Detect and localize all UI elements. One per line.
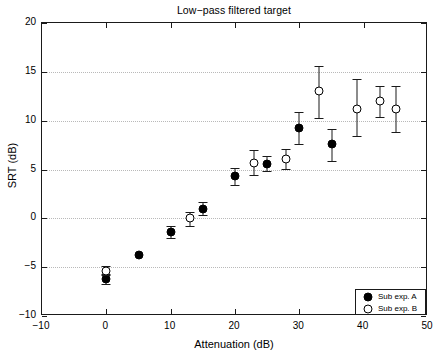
- data-point-a: [134, 251, 143, 260]
- y-axis-title: SRT (dB): [6, 126, 19, 206]
- y-axis-tick: [42, 316, 47, 317]
- y-axis-tick-label: −5: [25, 261, 36, 271]
- gridline-horizontal: [42, 267, 426, 268]
- error-bar-cap: [231, 185, 240, 186]
- x-axis-tick: [106, 23, 107, 28]
- gridline-horizontal: [42, 218, 426, 219]
- y-axis-tick-label: −10: [19, 310, 36, 320]
- chart-figure: Low−pass filtered target −10−505101520 −…: [0, 0, 441, 359]
- data-point-b: [314, 87, 323, 96]
- error-bar-cap: [353, 136, 362, 137]
- x-axis-tick-label: 50: [421, 321, 432, 331]
- error-bar-cap: [375, 86, 384, 87]
- error-bar-cap: [314, 118, 323, 119]
- y-axis-tick-label: 10: [25, 115, 36, 125]
- error-bar-cap: [282, 169, 291, 170]
- y-axis-tick-label: 0: [30, 212, 36, 222]
- error-bar-cap: [250, 175, 259, 176]
- error-bar-cap: [327, 129, 336, 130]
- error-bar-cap: [198, 215, 207, 216]
- plot-area: [41, 22, 427, 315]
- error-bar-cap: [282, 149, 291, 150]
- x-axis-tick: [364, 23, 365, 28]
- error-bar-cap: [185, 226, 194, 227]
- error-bar-cap: [327, 161, 336, 162]
- gridline-horizontal: [42, 72, 426, 73]
- data-point-a: [295, 123, 304, 132]
- x-axis-tick-label: 30: [293, 321, 304, 331]
- x-axis-tick: [171, 309, 172, 314]
- data-point-a: [231, 172, 240, 181]
- chart-legend: Sub exp. A Sub exp. B: [355, 289, 426, 315]
- x-axis-tick: [235, 23, 236, 28]
- x-axis-tick: [106, 309, 107, 314]
- y-axis-tick: [421, 121, 426, 122]
- data-point-b: [185, 214, 194, 223]
- error-bar-cap: [263, 171, 272, 172]
- data-point-a: [166, 228, 175, 237]
- data-point-b: [391, 104, 400, 113]
- x-axis-tick-label: 10: [164, 321, 175, 331]
- x-axis-tick-label: 20: [228, 321, 239, 331]
- error-bar-cap: [391, 86, 400, 87]
- data-point-a: [198, 204, 207, 213]
- legend-label: Sub exp. B: [378, 304, 417, 313]
- y-axis-tick: [42, 121, 47, 122]
- y-axis-tick: [421, 23, 426, 24]
- y-axis-tick: [421, 72, 426, 73]
- y-axis-tick-label: 15: [25, 66, 36, 76]
- error-bar-cap: [231, 168, 240, 169]
- data-point-b: [250, 158, 259, 167]
- gridline-horizontal: [42, 121, 426, 122]
- y-axis-tick: [42, 267, 47, 268]
- data-point-a: [327, 140, 336, 149]
- error-bar-cap: [263, 156, 272, 157]
- x-axis-tick-label: 40: [357, 321, 368, 331]
- data-point-b: [102, 267, 111, 276]
- y-axis-tick: [42, 23, 47, 24]
- error-bar-cap: [375, 117, 384, 118]
- error-bar-cap: [198, 202, 207, 203]
- y-axis-tick: [421, 170, 426, 171]
- error-bar-cap: [295, 144, 304, 145]
- error-bar-cap: [314, 66, 323, 67]
- y-axis-tick-label: 20: [25, 17, 36, 27]
- x-axis-tick: [299, 23, 300, 28]
- error-bar-cap: [295, 112, 304, 113]
- y-axis-tick: [421, 218, 426, 219]
- legend-label: Sub exp. A: [378, 292, 417, 301]
- error-bar-cap: [353, 79, 362, 80]
- chart-title: Low−pass filtered target: [41, 4, 427, 17]
- data-point-a: [263, 159, 272, 168]
- x-axis-tick-label: −10: [33, 321, 50, 331]
- error-bar-cap: [391, 132, 400, 133]
- error-bar-cap: [102, 284, 111, 285]
- legend-entry-sub-exp-b: Sub exp. B: [356, 302, 425, 315]
- y-axis-tick: [42, 218, 47, 219]
- x-axis-tick-label: 0: [103, 321, 109, 331]
- y-axis-tick: [42, 72, 47, 73]
- y-axis-tick-label: 5: [30, 164, 36, 174]
- open-circle-icon: [356, 302, 378, 315]
- data-point-b: [282, 154, 291, 163]
- x-axis-title: Attenuation (dB): [41, 338, 427, 351]
- x-axis-tick: [299, 309, 300, 314]
- y-axis-tick: [421, 267, 426, 268]
- y-axis-tick: [42, 170, 47, 171]
- data-point-b: [375, 97, 384, 106]
- error-bar-cap: [250, 150, 259, 151]
- y-axis-tick: [421, 316, 426, 317]
- data-point-b: [353, 104, 362, 113]
- x-axis-tick: [171, 23, 172, 28]
- x-axis-tick: [235, 309, 236, 314]
- error-bar-cap: [166, 238, 175, 239]
